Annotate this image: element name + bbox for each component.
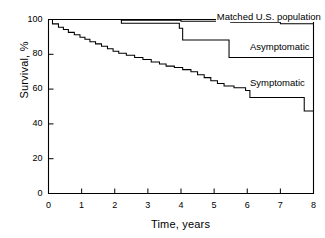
y-tick-label: 60 [13,83,43,93]
x-tick-label: 0 [39,200,59,210]
x-tick-label: 3 [138,200,158,210]
y-tick-label: 80 [13,48,43,58]
y-tick-label: 0 [13,188,43,198]
y-tick-label: 100 [13,14,43,24]
x-tick-label: 6 [237,200,257,210]
x-tick-label: 7 [270,200,290,210]
curve-label-symptomatic: Symptomatic [249,77,306,88]
x-tick-label: 2 [105,200,125,210]
x-axis-title: Time, years [48,218,313,230]
survival-chart-figure: Survival, % Time, years 020406080100 012… [0,0,325,238]
y-tick-label: 40 [13,118,43,128]
curve-label-asymptomatic: Asymptomatic [249,41,311,52]
x-tick-label: 4 [171,200,191,210]
x-tick-label: 1 [72,200,92,210]
x-tick-label: 5 [204,200,224,210]
y-axis-title: Survival, % [18,20,34,120]
y-tick-label: 20 [13,153,43,163]
curve-label-matched-u-s-population: Matched U.S. population [216,11,322,22]
x-tick-label: 8 [304,200,324,210]
survival-curves [49,20,314,112]
